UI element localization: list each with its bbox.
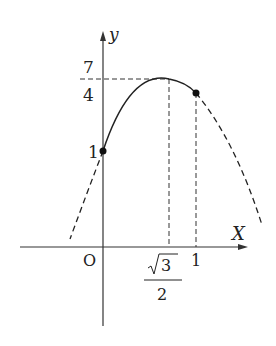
graph-canvas: y X O 7 4 1 3 2 1 — [0, 0, 276, 346]
point-y-intercept — [100, 148, 107, 155]
x-tick-one: 1 — [191, 251, 201, 270]
curve-dashed-left — [70, 151, 103, 239]
x-tick-vertex-radicand: 3 — [161, 256, 171, 275]
y-tick-one: 1 — [88, 142, 99, 162]
y-axis-arrow-icon — [100, 31, 106, 41]
x-tick-vertex-denominator: 2 — [157, 285, 167, 304]
x-axis-arrow-icon — [238, 244, 248, 250]
y-tick-top-numerator: 7 — [83, 57, 94, 77]
point-x1 — [193, 90, 200, 97]
x-axis-label: X — [230, 223, 246, 244]
y-tick-top-denominator: 4 — [83, 85, 94, 105]
curve-solid — [103, 78, 196, 151]
y-axis-label: y — [108, 24, 119, 44]
curve-dashed-right — [196, 93, 262, 225]
origin-label: O — [83, 251, 96, 270]
